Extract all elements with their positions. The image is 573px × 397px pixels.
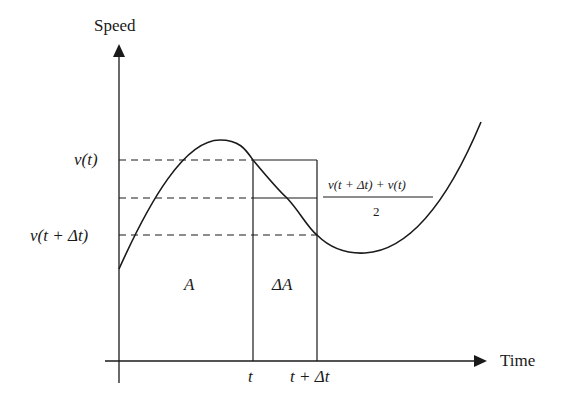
t-dt-tick-label: t + Δt (290, 368, 329, 385)
speed-time-diagram: Speed Time v(t) v(t + Δt) t t + Δt A ΔA … (0, 0, 573, 397)
average-formula-denominator: 2 (373, 205, 380, 218)
speed-curve (119, 122, 481, 269)
v-t-label: v(t) (74, 151, 98, 168)
diagram-graphics (0, 0, 573, 397)
y-axis-label: Speed (94, 17, 136, 34)
x-axis-label: Time (500, 352, 535, 369)
v-t-dt-label: v(t + Δt) (30, 227, 88, 244)
y-axis-arrow-icon (113, 44, 125, 57)
average-formula-numerator: v(t + Δt) + v(t) (328, 178, 406, 191)
t-tick-label: t (248, 368, 253, 385)
area-delta-a-label: ΔA (272, 276, 292, 293)
area-a-label: A (184, 276, 194, 293)
x-axis-arrow-icon (474, 355, 487, 367)
